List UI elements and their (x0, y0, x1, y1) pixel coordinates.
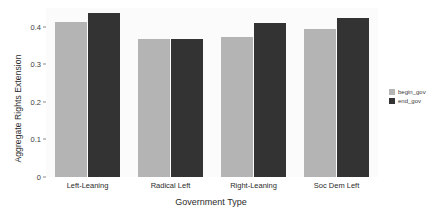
legend-swatch-icon-end-gov (389, 98, 395, 104)
bar-begin_gov-radical-left (138, 39, 170, 177)
bar-end_gov-radical-left (171, 39, 203, 177)
y-axis-tick-mark (43, 26, 46, 27)
bar-begin_gov-left-leaning (55, 22, 87, 177)
legend-label-begin-gov: begin_gov (398, 89, 426, 96)
legend-item-end-gov[interactable]: end_gov (389, 97, 426, 105)
bar-begin_gov-right-leaning (221, 37, 253, 177)
legend-item-begin-gov[interactable]: begin_gov (389, 88, 426, 96)
x-axis-tick-label: Radical Left (151, 181, 191, 190)
y-axis-tick-mark (43, 101, 46, 102)
y-axis-tick-mark (43, 64, 46, 65)
bar-begin_gov-soc-dem-left (304, 29, 336, 177)
bar-end_gov-right-leaning (254, 23, 286, 177)
y-axis-tick-mark (43, 177, 46, 178)
x-axis-title: Government Type (46, 197, 376, 207)
x-axis-tick-label: Soc Dem Left (314, 181, 359, 190)
bar-end_gov-left-leaning (88, 13, 120, 177)
legend: begin_gov end_gov (389, 88, 426, 105)
x-axis-tick-label: Left-Leaning (67, 181, 109, 190)
x-axis-tick-label: Right-Leaning (230, 181, 277, 190)
bar-end_gov-soc-dem-left (337, 18, 369, 177)
bar-chart: Aggregate Rights Extension 00.10.20.30.4… (0, 0, 441, 217)
y-axis-title: Aggregate Rights Extension (8, 0, 28, 217)
legend-label-end-gov: end_gov (398, 98, 421, 105)
y-axis-tick-mark (43, 139, 46, 140)
legend-swatch-icon-begin-gov (389, 89, 395, 95)
plot-panel: 00.10.20.30.4 (46, 8, 378, 177)
